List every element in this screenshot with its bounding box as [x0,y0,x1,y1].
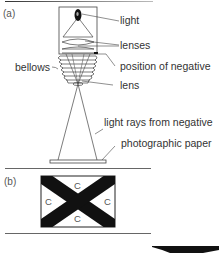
divider-after-b [5,233,151,234]
region-c-top: C [74,181,81,191]
callout-lens: lens [120,80,139,91]
region-c-left: C [45,197,52,207]
callout-light: light [120,15,139,26]
photographic-paper-shape [50,160,106,163]
callout-light-rays: light rays from negative [104,117,213,128]
divider-after-a [5,168,151,169]
region-c-bottom: C [74,214,81,224]
bellows-shape [58,56,97,83]
callout-bellows: bellows [15,62,50,73]
callout-photographic-paper: photographic paper [121,138,212,149]
panel-b-label: (b) [4,176,16,187]
region-c-right: C [104,197,111,207]
callout-lenses: lenses [120,40,150,51]
callout-position-of-negative: position of negative [120,61,210,72]
partial-figure-shape [152,246,219,253]
